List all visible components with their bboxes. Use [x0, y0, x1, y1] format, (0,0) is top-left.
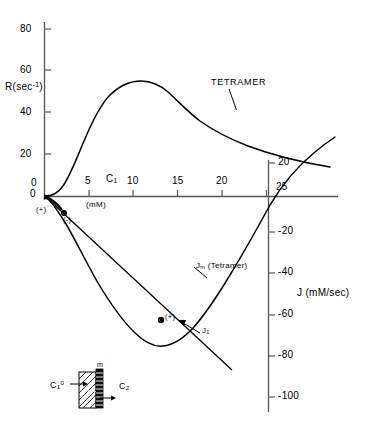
- tetramer-leader-line: [229, 89, 237, 110]
- x-axis: [45, 190, 339, 197]
- y-right-tick-label-neg20: -20: [278, 226, 293, 236]
- sign-label-plus-origin: (+): [36, 206, 46, 214]
- inset-label-c1-inner: C1: [86, 384, 97, 393]
- inset-label-c2: C2: [119, 382, 130, 391]
- curve-label-jm: Jm (Tetramer): [196, 262, 248, 271]
- inset-label-c2-main: C: [119, 381, 126, 391]
- y-left-tick-label-60: 60: [20, 65, 32, 75]
- y-axis-left-title-close: ): [39, 81, 43, 92]
- y-left-tick-label-0: 0: [31, 178, 37, 188]
- inset-label-c1-inner-sub: 1: [93, 386, 97, 393]
- x-tick-label-15: 15: [172, 176, 184, 186]
- inset-label-membrane: m: [97, 361, 103, 368]
- y-axis-left: [45, 22, 52, 200]
- y-left-tick-label-20: 20: [20, 149, 32, 159]
- y-right-tick-label-neg40: -40: [278, 267, 293, 277]
- j1-leader-line: [178, 320, 200, 333]
- y-left-tick-label-40: 40: [20, 107, 32, 117]
- inset-label-c1-outer-main: C: [50, 380, 57, 390]
- y-right-tick-label-neg60: -60: [278, 309, 293, 319]
- x-axis-title-sub: 1: [114, 177, 118, 184]
- y-right-tick-label-20: 20: [278, 157, 290, 167]
- y-left-tick-label-80: 80: [20, 24, 32, 34]
- curve-label-j1: J1: [202, 327, 210, 336]
- inset-label-c2-sub: 2: [126, 384, 130, 391]
- y-axis-right-title: J (mM/sec): [297, 288, 349, 298]
- x-axis-title: C1: [106, 174, 118, 185]
- y-axis-left-title: R(sec-1): [5, 82, 43, 92]
- marker-plus-dot: [158, 317, 164, 323]
- y-right-tick-label-neg100: -100: [278, 391, 299, 401]
- sign-label-plus-intersection: (+): [165, 313, 175, 321]
- inset-label-c1-inner-main: C: [86, 383, 93, 393]
- figure-container: 80 60 40 20 0 R(sec-1) 0 5 10 15 20 25 C…: [0, 0, 366, 431]
- curve-j1: [48, 199, 232, 370]
- y-right-tick-label-neg80: -80: [278, 350, 293, 360]
- x-axis-zero-label: 0: [30, 189, 36, 199]
- x-axis-units: (mM): [86, 201, 106, 209]
- marker-origin-plus: [45, 196, 62, 210]
- sign-label-minus: (-): [63, 216, 71, 224]
- y-axis-left-title-main: R(sec: [5, 81, 33, 92]
- x-axis-title-main: C: [106, 173, 114, 184]
- curve-label-j1-sub: 1: [206, 329, 209, 335]
- chart-plot-area: [0, 0, 366, 431]
- curve-label-tetramer: TETRAMER: [211, 78, 266, 87]
- inset-label-c1-outer: C10: [50, 380, 64, 390]
- x-tick-label-25: 25: [276, 182, 288, 192]
- x-tick-label-10: 10: [127, 176, 139, 186]
- curve-label-jm-tail: (Tetramer): [205, 261, 247, 270]
- inset-label-c1-outer-sup: 0: [61, 379, 65, 386]
- x-tick-label-5: 5: [85, 176, 91, 186]
- x-tick-label-20: 20: [216, 176, 228, 186]
